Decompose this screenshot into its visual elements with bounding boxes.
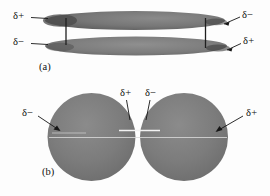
panel-a-graphics <box>31 11 241 56</box>
panel-b-caption: (b) <box>42 167 54 178</box>
ellipse-top-right-tip-shading <box>205 18 227 25</box>
panel-b-label-center-right: δ− <box>145 88 156 99</box>
panel-b-label-left: δ− <box>22 108 33 119</box>
panel-a-label-top-left: δ+ <box>13 11 24 22</box>
panel-a-label-bottom-left: δ− <box>13 37 24 48</box>
figure-graphics <box>0 0 270 196</box>
panel-b-label-right: δ+ <box>246 108 257 119</box>
leader-a-bottom-left <box>31 44 48 45</box>
ellipse-bottom-right-tip-shading <box>206 44 230 51</box>
panel-b-graphics <box>38 93 243 181</box>
panel-a-label-bottom-right: δ+ <box>243 36 254 47</box>
panel-a-label-top-right: δ− <box>242 10 253 21</box>
ellipse-top-left-tip-shading <box>43 14 77 26</box>
panel-a-caption: (a) <box>39 62 51 73</box>
panel-b-label-center-left: δ+ <box>120 88 131 99</box>
ellipse-bottom-left-tip-shading <box>46 43 74 51</box>
leader-a-top-right <box>224 17 240 24</box>
figure-container: δ+ δ− δ− δ+ (a) δ+ δ− δ− δ+ (b) <box>0 0 270 196</box>
